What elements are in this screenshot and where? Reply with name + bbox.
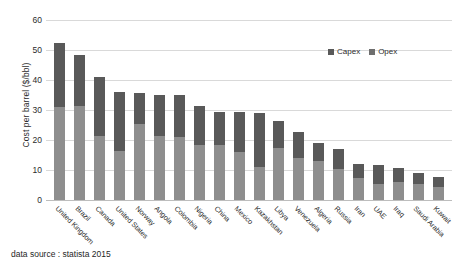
bar-column[interactable] bbox=[229, 20, 249, 200]
bar-segment-opex[interactable] bbox=[114, 92, 125, 150]
bar-column[interactable] bbox=[309, 20, 329, 200]
bar-column[interactable] bbox=[70, 20, 90, 200]
bar-segment-capex[interactable] bbox=[134, 124, 145, 201]
gridline-0 bbox=[46, 200, 452, 201]
bar-segment-opex[interactable] bbox=[373, 165, 384, 184]
bar-column[interactable] bbox=[90, 20, 110, 200]
x-label-slot: United Kingdom bbox=[50, 202, 70, 238]
bar-stack[interactable] bbox=[234, 112, 245, 201]
bar-column[interactable] bbox=[150, 20, 170, 200]
x-label-slot: Angola bbox=[150, 202, 170, 238]
bar-segment-opex[interactable] bbox=[413, 173, 424, 183]
bar-stack[interactable] bbox=[413, 173, 424, 200]
bar-stack[interactable] bbox=[273, 121, 284, 201]
bar-column[interactable] bbox=[289, 20, 309, 200]
x-label-slot: Canada bbox=[90, 202, 110, 238]
bar-stack[interactable] bbox=[194, 106, 205, 200]
x-label-slot: Nigeria bbox=[189, 202, 209, 238]
bar-segment-opex[interactable] bbox=[273, 121, 284, 148]
chart-legend: Capex Opex bbox=[328, 47, 397, 56]
x-label-slot: Kuwait bbox=[428, 202, 448, 238]
y-tick-label-0: 0 bbox=[16, 195, 42, 205]
bar-segment-opex[interactable] bbox=[254, 113, 265, 167]
bar-stack[interactable] bbox=[94, 77, 105, 200]
bar-column[interactable] bbox=[169, 20, 189, 200]
y-tick-label-20: 20 bbox=[16, 135, 42, 145]
bar-segment-capex[interactable] bbox=[273, 148, 284, 201]
bar-column[interactable] bbox=[50, 20, 70, 200]
bar-segment-opex[interactable] bbox=[194, 106, 205, 144]
bar-stack[interactable] bbox=[353, 164, 364, 200]
legend-swatch-capex-icon bbox=[328, 49, 334, 55]
bar-column[interactable] bbox=[209, 20, 229, 200]
bar-segment-capex[interactable] bbox=[433, 187, 444, 201]
bar-segment-capex[interactable] bbox=[333, 169, 344, 201]
bar-column[interactable] bbox=[428, 20, 448, 200]
bar-segment-capex[interactable] bbox=[74, 106, 85, 201]
bar-segment-capex[interactable] bbox=[114, 151, 125, 201]
bar-segment-capex[interactable] bbox=[234, 152, 245, 200]
bar-stack[interactable] bbox=[174, 95, 185, 200]
bar-column[interactable] bbox=[269, 20, 289, 200]
bar-stack[interactable] bbox=[433, 177, 444, 200]
bar-segment-capex[interactable] bbox=[154, 136, 165, 201]
x-label-slot: Algeria bbox=[309, 202, 329, 238]
bar-column[interactable] bbox=[130, 20, 150, 200]
y-tick-label-60: 60 bbox=[16, 15, 42, 25]
bar-segment-opex[interactable] bbox=[94, 77, 105, 135]
chart-screenshot: Cost per barrel ($/bbl) 6050403020100 Un… bbox=[0, 0, 459, 268]
bar-stack[interactable] bbox=[333, 149, 344, 200]
bar-stack[interactable] bbox=[293, 132, 304, 200]
x-label-slot: Iraq bbox=[388, 202, 408, 238]
bar-stack[interactable] bbox=[373, 165, 384, 200]
bar-segment-opex[interactable] bbox=[154, 95, 165, 136]
bar-stack[interactable] bbox=[393, 168, 404, 200]
bar-segment-opex[interactable] bbox=[174, 95, 185, 137]
legend-item-capex: Capex bbox=[328, 47, 360, 56]
x-label-slot: Norway bbox=[130, 202, 150, 238]
legend-swatch-opex-icon bbox=[369, 49, 375, 55]
bar-column[interactable] bbox=[408, 20, 428, 200]
bar-segment-opex[interactable] bbox=[293, 132, 304, 158]
bar-stack[interactable] bbox=[154, 95, 165, 200]
bar-segment-capex[interactable] bbox=[54, 107, 65, 200]
legend-label-opex: Opex bbox=[378, 47, 397, 56]
data-source-note: data source : statista 2015 bbox=[11, 249, 111, 259]
y-tick-label-50: 50 bbox=[16, 45, 42, 55]
bar-segment-capex[interactable] bbox=[293, 158, 304, 200]
bar-column[interactable] bbox=[110, 20, 130, 200]
bar-segment-capex[interactable] bbox=[194, 145, 205, 201]
bar-segment-capex[interactable] bbox=[393, 182, 404, 200]
bar-segment-capex[interactable] bbox=[373, 184, 384, 201]
bar-stack[interactable] bbox=[134, 93, 145, 200]
x-label-slot: China bbox=[209, 202, 229, 238]
bar-segment-capex[interactable] bbox=[94, 136, 105, 201]
bar-stack[interactable] bbox=[114, 92, 125, 200]
bar-stack[interactable] bbox=[313, 143, 324, 200]
bar-segment-capex[interactable] bbox=[214, 145, 225, 201]
bar-segment-capex[interactable] bbox=[313, 161, 324, 200]
x-label-slot: Venezuela bbox=[289, 202, 309, 238]
bar-stack[interactable] bbox=[54, 43, 65, 200]
bar-column[interactable] bbox=[249, 20, 269, 200]
bar-segment-opex[interactable] bbox=[433, 177, 444, 187]
bar-segment-capex[interactable] bbox=[353, 178, 364, 201]
bar-segment-capex[interactable] bbox=[174, 137, 185, 200]
bar-segment-opex[interactable] bbox=[74, 55, 85, 106]
bar-segment-opex[interactable] bbox=[234, 112, 245, 153]
bar-segment-opex[interactable] bbox=[54, 43, 65, 107]
bar-segment-opex[interactable] bbox=[333, 149, 344, 169]
bar-segment-opex[interactable] bbox=[353, 164, 364, 178]
bar-segment-opex[interactable] bbox=[134, 93, 145, 124]
bar-segment-opex[interactable] bbox=[393, 168, 404, 182]
bar-segment-opex[interactable] bbox=[313, 143, 324, 161]
x-axis-label: UAE bbox=[372, 204, 389, 221]
bar-segment-capex[interactable] bbox=[254, 167, 265, 200]
x-label-slot: Libya bbox=[269, 202, 289, 238]
bar-segment-opex[interactable] bbox=[214, 112, 225, 145]
bar-segment-capex[interactable] bbox=[413, 184, 424, 201]
bar-column[interactable] bbox=[189, 20, 209, 200]
bar-stack[interactable] bbox=[214, 112, 225, 201]
bar-stack[interactable] bbox=[74, 55, 85, 201]
bar-stack[interactable] bbox=[254, 113, 265, 200]
